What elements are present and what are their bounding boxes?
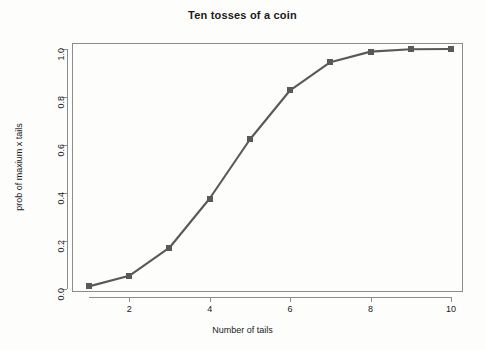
x-tick-label: 6: [275, 304, 305, 314]
y-tick-label: 0.8: [56, 96, 66, 136]
x-tick: [371, 297, 372, 302]
chart-title: Ten tosses of a coin: [0, 9, 485, 21]
data-point: [166, 245, 172, 251]
y-tick-label: 1.0: [56, 48, 66, 88]
y-tick-label: 0.0: [56, 288, 66, 328]
data-point: [408, 46, 414, 52]
y-tick-label: 0.2: [56, 240, 66, 280]
data-point: [448, 46, 454, 52]
x-tick-label: 4: [195, 304, 225, 314]
data-point: [327, 59, 333, 65]
x-axis-title: Number of tails: [0, 325, 485, 335]
y-tick-label: 0.4: [56, 192, 66, 232]
y-tick-label: 0.6: [56, 144, 66, 184]
y-axis-title: prob of maxium x tails: [14, 87, 24, 247]
data-point: [368, 49, 374, 55]
data-point: [86, 283, 92, 289]
data-point: [287, 87, 293, 93]
data-point: [247, 136, 253, 142]
data-point: [207, 196, 213, 202]
x-tick-label: 2: [114, 304, 144, 314]
x-tick: [290, 297, 291, 302]
x-tick-label: 10: [436, 304, 466, 314]
chart-figure: Ten tosses of a coin 0.00.20.40.60.81.0 …: [0, 0, 485, 350]
x-tick-label: 8: [356, 304, 386, 314]
x-tick: [210, 297, 211, 302]
plot-frame: [72, 43, 463, 292]
x-tick: [129, 297, 130, 302]
y-axis-line: [67, 49, 68, 289]
data-point: [126, 273, 132, 279]
x-tick: [451, 297, 452, 302]
x-axis-line: [89, 297, 451, 298]
